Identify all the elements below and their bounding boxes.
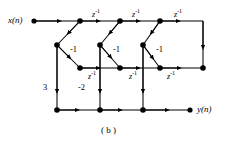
gain-label-feedback-3: -1 [156, 45, 163, 54]
delay-exp-mid-2: -1 [132, 70, 137, 76]
node-top-3 [157, 18, 163, 24]
gain-label-forward-2: -2 [78, 83, 85, 92]
diagram-canvas [0, 0, 232, 144]
delay-exp-top-2: -1 [135, 8, 140, 14]
node-bottom-2 [97, 107, 103, 113]
node-bottom-1 [54, 107, 60, 113]
node-lower-mid-4 [200, 65, 206, 71]
node-lower-mid-3 [157, 65, 163, 71]
node-bottom-3 [140, 107, 146, 113]
delay-label-top-2: z-1 [132, 8, 140, 19]
node-lower-mid-2 [117, 65, 123, 71]
input-signal-label: x(n) [8, 16, 23, 25]
node-top-2 [117, 18, 123, 24]
delay-exp-top-3: -1 [177, 8, 182, 14]
node-lower-mid-1 [77, 65, 83, 71]
figure-caption: ( b ) [101, 126, 116, 135]
node-upper-mid-2 [97, 42, 103, 48]
delay-exp-mid-3: -1 [170, 70, 175, 76]
edges-group [34, 21, 203, 110]
node-output-terminal [187, 107, 192, 112]
node-upper-mid-1 [54, 42, 60, 48]
delay-label-mid-3: z-1 [167, 70, 175, 81]
nodes-group [31, 18, 205, 113]
delay-label-mid-2: z-1 [129, 70, 137, 81]
node-upper-mid-3 [140, 42, 146, 48]
delay-label-mid-1: z-1 [88, 70, 96, 81]
gain-label-forward-1: 3 [43, 83, 47, 92]
output-signal-label: y(n) [197, 105, 212, 114]
delay-label-top-1: z-1 [92, 8, 100, 19]
delay-exp-top-1: -1 [95, 8, 100, 14]
node-top-1 [77, 18, 83, 24]
gain-label-feedback-1: -1 [70, 45, 77, 54]
delay-exp-mid-1: -1 [91, 70, 96, 76]
delay-label-top-3: z-1 [174, 8, 182, 19]
node-input-terminal [31, 18, 36, 23]
signal-flow-diagram: x(n) y(n) z-1 z-1 z-1 z-1 z-1 z-1 -1 -1 … [0, 0, 232, 144]
gain-label-feedback-2: -1 [113, 45, 120, 54]
